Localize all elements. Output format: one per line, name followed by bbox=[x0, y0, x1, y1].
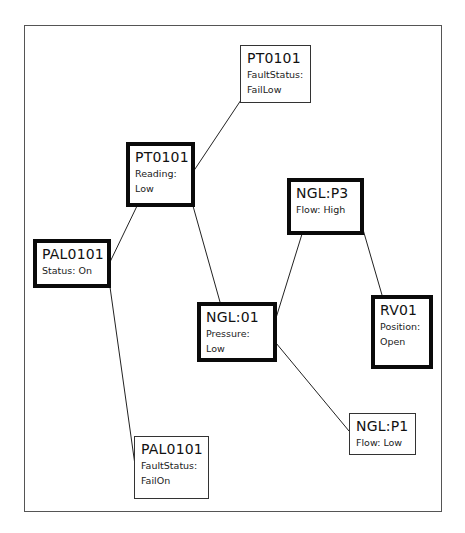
edge-pal0101-status-to-pt0101-reading bbox=[110, 206, 137, 262]
node-rv01[interactable]: RV01 Position: Open bbox=[371, 295, 433, 369]
edge-pal0101-status-to-pal0101-fault bbox=[110, 287, 135, 465]
node-title: NGL:01 bbox=[206, 308, 273, 326]
edge-ngl01-to-nglp1 bbox=[276, 343, 349, 431]
node-attribute: Reading: bbox=[135, 166, 191, 181]
edge-nglp3-to-rv01 bbox=[362, 226, 382, 295]
node-value: Open bbox=[380, 334, 429, 349]
node-title: PT0101 bbox=[135, 148, 191, 166]
node-value: Low bbox=[135, 181, 191, 196]
node-ngl-01[interactable]: NGL:01 Pressure: Low bbox=[197, 302, 277, 362]
node-pt0101-reading[interactable]: PT0101 Reading: Low bbox=[126, 142, 195, 207]
node-title: PAL0101 bbox=[42, 245, 107, 263]
node-title: NGL:P1 bbox=[356, 417, 415, 435]
node-value: Low bbox=[206, 341, 273, 356]
node-attribute: Status: On bbox=[42, 263, 107, 278]
node-ngl-p1[interactable]: NGL:P1 Flow: Low bbox=[349, 413, 416, 455]
node-attribute: FaultStatus: bbox=[141, 458, 208, 473]
node-pal0101-faultstatus[interactable]: PAL0101 FaultStatus: FailOn bbox=[134, 436, 209, 499]
edge-pt0101-reading-to-pt0101-fault bbox=[193, 100, 241, 172]
node-attribute: Position: bbox=[380, 319, 429, 334]
edge-pt0101-reading-to-ngl01 bbox=[193, 206, 220, 302]
node-pal0101-status[interactable]: PAL0101 Status: On bbox=[33, 239, 111, 288]
node-ngl-p3[interactable]: NGL:P3 Flow: High bbox=[287, 178, 364, 235]
node-attribute: Pressure: bbox=[206, 326, 273, 341]
edge-ngl01-to-nglp3 bbox=[276, 234, 302, 318]
node-title: NGL:P3 bbox=[296, 184, 360, 202]
node-value: FailLow bbox=[247, 82, 310, 97]
node-value: FailOn bbox=[141, 473, 208, 488]
node-title: RV01 bbox=[380, 301, 429, 319]
node-title: PT0101 bbox=[247, 49, 310, 67]
node-pt0101-faultstatus[interactable]: PT0101 FaultStatus: FailLow bbox=[240, 45, 311, 103]
node-attribute: Flow: High bbox=[296, 202, 360, 217]
node-attribute: Flow: Low bbox=[356, 435, 415, 450]
node-title: PAL0101 bbox=[141, 440, 208, 458]
node-attribute: FaultStatus: bbox=[247, 67, 310, 82]
